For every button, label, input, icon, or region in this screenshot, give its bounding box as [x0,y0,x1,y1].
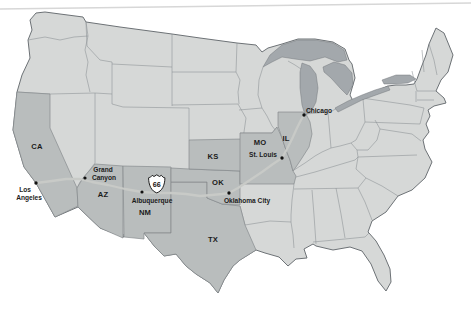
city-label-los-angeles-line2: Angeles [16,194,42,202]
city-label-chicago: Chicago [306,107,332,115]
state-label-nm: NM [139,208,151,217]
city-label-los-angeles-line1: Los [19,186,31,193]
page-edge-line [0,3,471,9]
city-dot-grand-canyon [83,176,86,179]
city-label-grand-canyon-line1: Grand [93,166,112,173]
city-dot-los-angeles [34,181,37,184]
state-label-ca: CA [31,142,43,151]
state-label-az: AZ [98,190,109,199]
map-canvas: 66 CA AZ NM TX OK KS MO IL Los Angeles G… [0,0,471,311]
city-dot-albuquerque [140,190,143,193]
state-label-tx: TX [208,235,218,244]
state-label-mo: MO [254,138,267,147]
city-label-grand-canyon-line2: Canyon [92,174,116,182]
city-label-albuquerque: Albuquerque [132,197,173,205]
state-label-ok: OK [212,178,224,187]
route-66-map: 66 CA AZ NM TX OK KS MO IL Los Angeles G… [0,0,471,311]
state-label-ks: KS [208,152,219,161]
state-label-il: IL [282,134,289,143]
lake-ontario [382,75,416,84]
city-dot-oklahoma-city [227,191,230,194]
city-label-oklahoma-city: Oklahoma City [224,197,271,205]
route-shield-number: 66 [153,180,161,189]
city-dot-st-louis [280,156,283,159]
city-label-st-louis: St. Louis [249,151,277,158]
